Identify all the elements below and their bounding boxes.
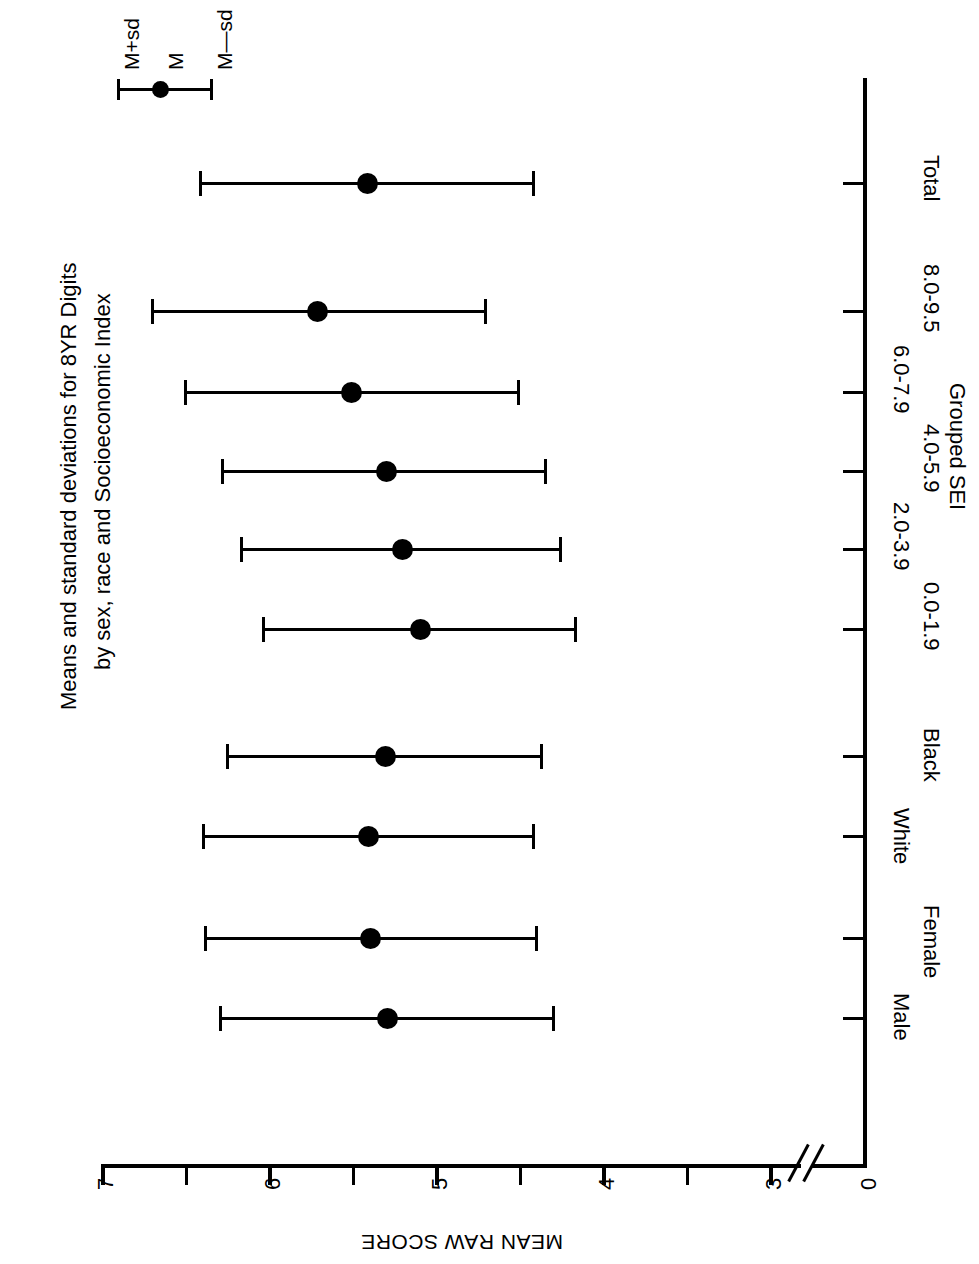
mean-dot bbox=[341, 382, 362, 403]
figure-canvas: Means and standard deviations for 8YR Di… bbox=[0, 0, 979, 1264]
error-bar-cap-low bbox=[532, 824, 535, 849]
legend-mean-dot bbox=[152, 81, 169, 98]
error-bar-cap-high bbox=[240, 537, 243, 562]
category-tick-white bbox=[843, 835, 864, 838]
category-label-black: Black bbox=[920, 728, 942, 782]
error-bar-cap-low bbox=[552, 1006, 555, 1031]
category-tick-total bbox=[843, 182, 864, 185]
category-tick-8-0-9-5 bbox=[843, 310, 864, 313]
value-tick-minor-6p5 bbox=[185, 1164, 188, 1185]
mean-dot bbox=[358, 826, 379, 847]
error-bar-cap-low bbox=[535, 926, 538, 951]
value-tick-minor-3p5 bbox=[686, 1164, 689, 1185]
figure-title-line-2: by sex, race and Socioeconomic Index bbox=[92, 293, 114, 670]
legend-label-center: M bbox=[165, 53, 186, 71]
error-bar-cap-low bbox=[540, 744, 543, 769]
value-tick-label-7: 7 bbox=[95, 1178, 117, 1190]
value-tick-label-4: 4 bbox=[596, 1178, 618, 1190]
category-label-white: White bbox=[890, 808, 912, 864]
error-bar-cap-high bbox=[204, 926, 207, 951]
category-tick-black bbox=[843, 755, 864, 758]
value-tick-label-0: 0 bbox=[858, 1178, 880, 1190]
mean-dot bbox=[360, 928, 381, 949]
value-axis-spine-origin-stub bbox=[812, 1164, 867, 1168]
error-bar-cap-low bbox=[517, 380, 520, 405]
category-label-total: Total bbox=[920, 155, 942, 201]
error-bar-cap-high bbox=[226, 744, 229, 769]
mean-dot bbox=[410, 619, 431, 640]
error-bar-cap-low bbox=[484, 299, 487, 324]
value-axis-spine-main bbox=[101, 1164, 801, 1168]
error-bar-cap-low bbox=[559, 537, 562, 562]
category-tick-6-0-7-9 bbox=[843, 391, 864, 394]
error-bar-cap-high bbox=[262, 617, 265, 642]
value-tick-minor-5p5 bbox=[352, 1164, 355, 1185]
legend-label-upper: M+sd bbox=[121, 18, 142, 70]
category-label-4-0-5-9: 4.0-5.9 bbox=[920, 424, 942, 493]
category-tick-male bbox=[843, 1017, 864, 1020]
error-bar-cap-high bbox=[151, 299, 154, 324]
legend-cap-upper bbox=[117, 79, 120, 100]
value-axis-title: MEAN RAW SCORE bbox=[361, 1232, 563, 1253]
category-tick-2-0-3-9 bbox=[843, 548, 864, 551]
category-label-female: Female bbox=[920, 905, 942, 978]
category-axis-spine bbox=[863, 78, 867, 1168]
error-bar-cap-high bbox=[199, 171, 202, 196]
mean-dot bbox=[376, 461, 397, 482]
legend-cap-lower bbox=[210, 79, 213, 100]
figure-title-line-1: Means and standard deviations for 8YR Di… bbox=[58, 262, 80, 710]
mean-dot bbox=[392, 539, 413, 560]
category-label-8-0-9-5: 8.0-9.5 bbox=[920, 264, 942, 333]
legend-label-lower: M—sd bbox=[214, 9, 235, 70]
mean-dot bbox=[377, 1008, 398, 1029]
category-label-6-0-7-9: 6.0-7.9 bbox=[890, 345, 912, 414]
value-tick-label-3: 3 bbox=[763, 1178, 785, 1190]
category-label-2-0-3-9: 2.0-3.9 bbox=[890, 502, 912, 571]
error-bar-cap-low bbox=[532, 171, 535, 196]
error-bar-cap-high bbox=[184, 380, 187, 405]
error-bar-cap-high bbox=[202, 824, 205, 849]
error-bar-cap-high bbox=[221, 459, 224, 484]
category-label-0-0-1-9: 0.0-1.9 bbox=[920, 582, 942, 651]
value-tick-label-5: 5 bbox=[429, 1178, 451, 1190]
category-axis-title: Grouped SEI bbox=[946, 383, 968, 510]
value-tick-label-6: 6 bbox=[262, 1178, 284, 1190]
value-tick-minor-4p5 bbox=[519, 1164, 522, 1185]
mean-dot bbox=[357, 173, 378, 194]
mean-dot bbox=[307, 301, 328, 322]
error-bar-cap-low bbox=[544, 459, 547, 484]
category-tick-4-0-5-9 bbox=[843, 470, 864, 473]
error-bar-cap-high bbox=[219, 1006, 222, 1031]
category-tick-female bbox=[843, 937, 864, 940]
category-label-male: Male bbox=[890, 993, 912, 1041]
mean-dot bbox=[375, 746, 396, 767]
category-tick-0-0-1-9 bbox=[843, 628, 864, 631]
error-bar-cap-low bbox=[574, 617, 577, 642]
